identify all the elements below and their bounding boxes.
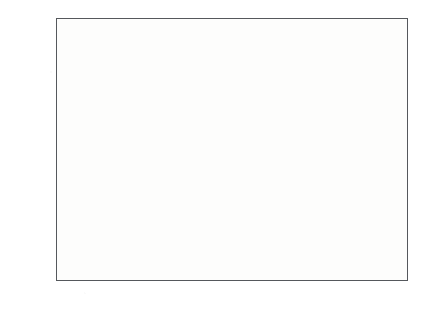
chart-page (0, 0, 424, 326)
bar-series (56, 18, 408, 281)
